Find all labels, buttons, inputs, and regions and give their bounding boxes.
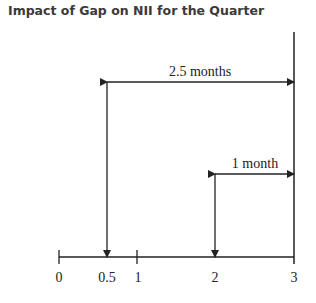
timeline-diagram: 2.5 months 1 month 0 0.5 1 2 3: [0, 0, 316, 303]
tick-label-0.5: 0.5: [98, 270, 116, 285]
label-1-month: 1 month: [232, 156, 278, 171]
tick-label-2: 2: [212, 270, 219, 285]
tick-label-0: 0: [56, 270, 63, 285]
label-2.5-months: 2.5 months: [169, 64, 231, 79]
tick-label-1: 1: [135, 270, 142, 285]
tick-label-3: 3: [291, 270, 298, 285]
